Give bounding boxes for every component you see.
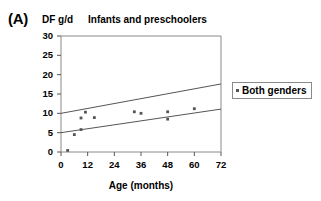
upper-confidence-line (61, 84, 221, 113)
data-point (140, 112, 143, 115)
y-tick-label: 25 (27, 49, 53, 60)
figure-panel-a: (A) DF g/d Infants and preschoolers 0510… (0, 0, 321, 201)
data-point (166, 110, 169, 113)
y-tick-label: 5 (27, 127, 53, 138)
plot-frame (61, 36, 221, 152)
y-tick-label: 10 (27, 107, 53, 118)
data-point (66, 149, 69, 152)
data-point (166, 118, 169, 121)
y-tick-label: 30 (27, 30, 53, 41)
axis-tick-marks (57, 36, 221, 156)
data-point (93, 116, 96, 119)
x-tick-label: 24 (103, 159, 125, 170)
y-tick-label: 0 (27, 146, 53, 157)
x-axis-title: Age (months) (61, 180, 221, 191)
x-tick-label: 12 (77, 159, 99, 170)
data-point (80, 128, 83, 131)
x-tick-label: 72 (210, 159, 232, 170)
y-tick-label: 15 (27, 88, 53, 99)
x-tick-label: 0 (50, 159, 72, 170)
data-point (80, 117, 83, 120)
trend-lines-group (61, 84, 221, 133)
x-tick-label: 60 (183, 159, 205, 170)
data-point (133, 110, 136, 113)
legend: Both genders (232, 82, 312, 99)
data-points-group (66, 107, 195, 152)
legend-label: Both genders (242, 85, 306, 96)
legend-marker-icon (236, 89, 239, 92)
data-point (193, 107, 196, 110)
data-point (73, 133, 76, 136)
data-point (84, 111, 87, 114)
x-tick-label: 36 (130, 159, 152, 170)
x-tick-label: 48 (157, 159, 179, 170)
y-tick-label: 20 (27, 69, 53, 80)
